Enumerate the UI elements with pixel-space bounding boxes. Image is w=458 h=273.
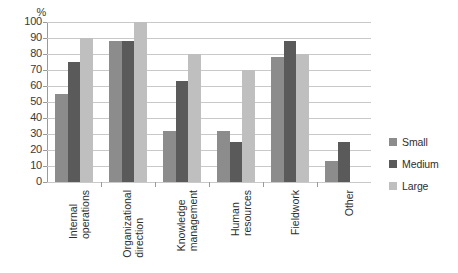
- legend-item-label: Medium: [402, 158, 439, 170]
- bar-group: [55, 22, 93, 182]
- legend-swatch-icon: [389, 182, 397, 190]
- y-axis-tick-label: 40: [14, 111, 42, 123]
- bar-group: [109, 22, 147, 182]
- bar: [109, 41, 122, 182]
- bar: [217, 131, 230, 182]
- y-axis-tick-label: 10: [14, 159, 42, 171]
- bar: [176, 81, 189, 182]
- x-axis-category-label: Fieldwork: [290, 190, 302, 235]
- bar: [271, 57, 284, 182]
- bar: [325, 161, 338, 182]
- y-axis-tick-label: 50: [14, 95, 42, 107]
- x-axis-tick-mark: [263, 182, 264, 187]
- bar: [134, 22, 147, 182]
- bar: [284, 41, 297, 182]
- gridline: [47, 134, 371, 135]
- y-axis-tick-label: 80: [14, 47, 42, 59]
- gridline: [47, 166, 371, 167]
- y-axis-tick-label: 20: [14, 143, 42, 155]
- gridline: [47, 102, 371, 103]
- bar: [230, 142, 243, 182]
- gridline: [47, 150, 371, 151]
- y-axis-tick-label: 90: [14, 31, 42, 43]
- x-axis-tick-mark: [209, 182, 210, 187]
- legend-swatch-icon: [389, 138, 397, 146]
- bar: [242, 70, 255, 182]
- gridline: [47, 22, 371, 23]
- legend-item[interactable]: Medium: [389, 153, 439, 175]
- bar: [163, 131, 176, 182]
- x-axis-category-label: Other: [344, 190, 356, 216]
- legend-item-label: Large: [402, 180, 428, 192]
- gridline: [47, 70, 371, 71]
- legend-item[interactable]: Large: [389, 175, 439, 197]
- bar-group: [217, 22, 255, 182]
- gridline: [47, 54, 371, 55]
- y-axis-tick-label: 100: [14, 15, 42, 27]
- x-axis-category-label: Organizational direction: [122, 190, 145, 258]
- x-axis-category-label: Human resources: [230, 190, 253, 236]
- x-axis-tick-mark: [317, 182, 318, 187]
- x-axis-tick-mark: [155, 182, 156, 187]
- legend-item-label: Small: [402, 136, 428, 148]
- gridline: [47, 118, 371, 119]
- legend-swatch-icon: [389, 160, 397, 168]
- x-axis-tick-mark: [101, 182, 102, 187]
- bar-group: [271, 22, 309, 182]
- y-axis-tick-label: 70: [14, 63, 42, 75]
- x-axis-category-label: Knowledge management: [176, 190, 199, 251]
- legend-item[interactable]: Small: [389, 131, 439, 153]
- y-axis-tick-label: 60: [14, 79, 42, 91]
- gridline: [47, 86, 371, 87]
- bar: [296, 54, 309, 182]
- bar: [68, 62, 81, 182]
- bar: [188, 54, 201, 182]
- bar-group: [325, 22, 363, 182]
- chart-legend: SmallMediumLarge: [389, 131, 439, 197]
- bar: [338, 142, 351, 182]
- bar: [80, 38, 93, 182]
- bar-group: [163, 22, 201, 182]
- x-axis-category-label: Internal operations: [68, 190, 91, 239]
- bar: [122, 41, 135, 182]
- plot-area: [47, 22, 371, 182]
- bar: [55, 94, 68, 182]
- gridline: [47, 38, 371, 39]
- y-axis-tick-label: 0: [14, 175, 42, 187]
- y-axis-tick-label: 30: [14, 127, 42, 139]
- bar-chart: % 0102030405060708090100 Internal operat…: [0, 0, 458, 273]
